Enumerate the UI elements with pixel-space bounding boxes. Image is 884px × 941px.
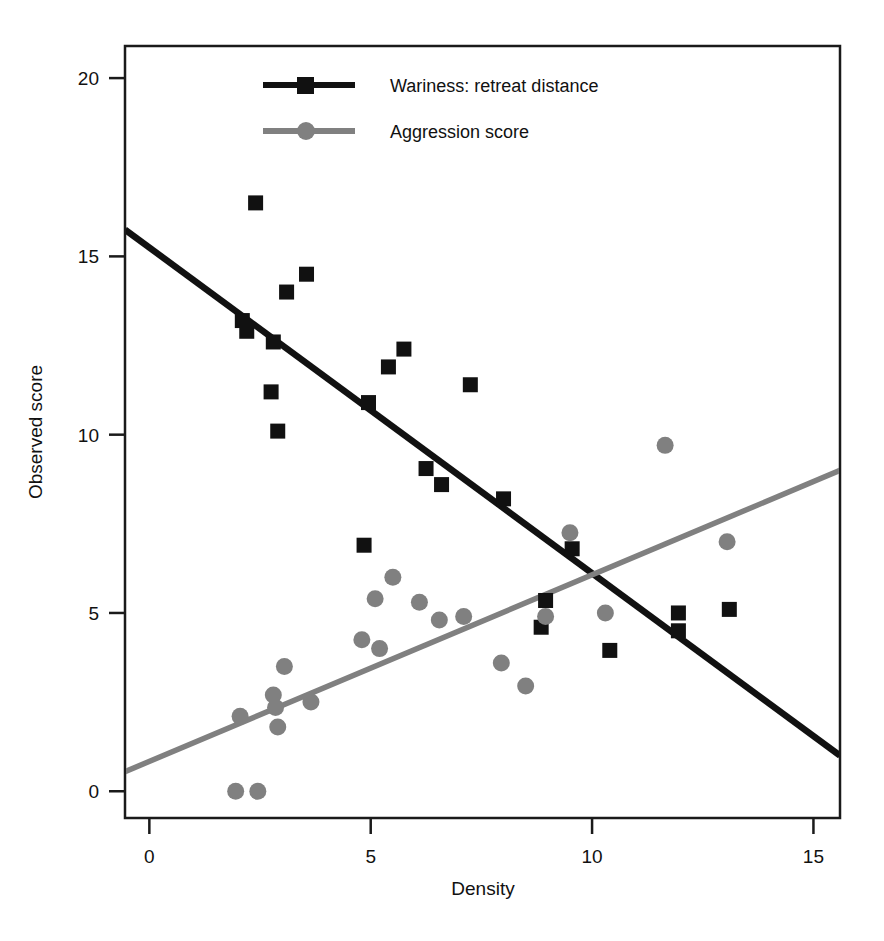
data-point-square bbox=[270, 424, 285, 439]
data-point-square bbox=[671, 623, 686, 638]
data-point-square bbox=[299, 267, 314, 282]
data-point-square bbox=[496, 491, 511, 506]
data-point-circle bbox=[227, 783, 244, 800]
data-point-circle bbox=[537, 608, 554, 625]
data-point-circle bbox=[367, 590, 384, 607]
data-point-square bbox=[434, 477, 449, 492]
data-point-circle bbox=[353, 631, 370, 648]
data-point-circle bbox=[267, 699, 284, 716]
data-point-circle bbox=[719, 533, 736, 550]
data-point-square bbox=[357, 538, 372, 553]
data-point-square bbox=[419, 461, 434, 476]
data-point-square bbox=[463, 377, 478, 392]
scatter-plot-figure: 051015 05101520 Density Observed score W… bbox=[0, 0, 884, 941]
data-point-square bbox=[264, 384, 279, 399]
data-point-square bbox=[602, 643, 617, 658]
data-point-circle bbox=[657, 437, 674, 454]
data-point-square bbox=[279, 285, 294, 300]
y-tick-label: 0 bbox=[88, 781, 99, 802]
data-point-square bbox=[361, 395, 376, 410]
data-point-square bbox=[671, 605, 686, 620]
data-point-circle bbox=[411, 594, 428, 611]
data-point-circle bbox=[249, 783, 266, 800]
data-point-square bbox=[538, 593, 553, 608]
legend-circle-marker-icon bbox=[297, 122, 315, 140]
legend-entry-wariness: Wariness: retreat distance bbox=[263, 76, 598, 96]
data-point-square bbox=[248, 195, 263, 210]
data-point-circle bbox=[431, 612, 448, 629]
x-tick-label: 0 bbox=[144, 846, 155, 867]
data-point-square bbox=[565, 541, 580, 556]
legend-entry-aggression: Aggression score bbox=[263, 122, 529, 142]
legend-label-aggression: Aggression score bbox=[390, 122, 529, 142]
y-tick-label: 20 bbox=[78, 68, 99, 89]
x-tick-label: 5 bbox=[365, 846, 376, 867]
data-point-circle bbox=[232, 708, 249, 725]
data-point-square bbox=[266, 334, 281, 349]
x-tick-label: 10 bbox=[582, 846, 603, 867]
data-point-circle bbox=[493, 654, 510, 671]
y-tick-label: 5 bbox=[88, 603, 99, 624]
data-point-circle bbox=[371, 640, 388, 657]
data-point-circle bbox=[455, 608, 472, 625]
y-axis-title: Observed score bbox=[25, 365, 46, 499]
data-point-circle bbox=[517, 678, 534, 695]
y-tick-label: 10 bbox=[78, 425, 99, 446]
data-point-circle bbox=[597, 604, 614, 621]
x-axis-title: Density bbox=[451, 878, 515, 899]
data-point-square bbox=[381, 359, 396, 374]
legend-label-wariness: Wariness: retreat distance bbox=[390, 76, 598, 96]
data-point-square bbox=[722, 602, 737, 617]
data-point-square bbox=[239, 324, 254, 339]
data-point-circle bbox=[302, 694, 319, 711]
legend-square-marker-icon bbox=[297, 77, 314, 94]
y-tick-label: 15 bbox=[78, 246, 99, 267]
data-point-square bbox=[396, 342, 411, 357]
data-point-circle bbox=[561, 524, 578, 541]
data-point-circle bbox=[269, 719, 286, 736]
data-point-circle bbox=[384, 569, 401, 586]
x-tick-label: 15 bbox=[803, 846, 824, 867]
data-point-circle bbox=[276, 658, 293, 675]
